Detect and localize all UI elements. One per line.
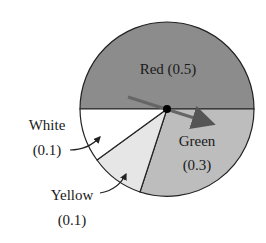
label-yellow-name: Yellow: [51, 187, 94, 203]
label-red: Red (0.5): [140, 61, 197, 78]
label-green-value: (0.3): [183, 157, 212, 174]
label-yellow-value: (0.1): [58, 212, 87, 229]
spinner-pivot: [163, 105, 171, 113]
spinner-pie-chart: Red (0.5) Green (0.3) White (0.1) Yellow…: [0, 0, 266, 243]
label-white-value: (0.1): [33, 142, 62, 159]
label-green-name: Green: [179, 133, 216, 149]
label-white-name: White: [29, 117, 66, 133]
